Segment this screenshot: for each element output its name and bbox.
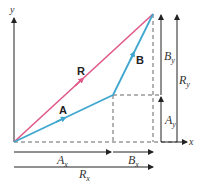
ry-component-label: Ry: [178, 73, 190, 89]
vector-diagram: y x R A B By Ay Ry Ax Bx: [0, 0, 197, 187]
vector-r-arrow: [75, 79, 82, 85]
vector-a-arrow: [56, 118, 64, 122]
diagram-svg: y x R A B By Ay Ry Ax Bx: [0, 0, 197, 187]
ay-component-label: Ay: [164, 113, 176, 129]
rx-component-label: Rx: [78, 167, 90, 183]
vector-a-label: A: [59, 104, 67, 116]
y-axis-label: y: [9, 4, 15, 15]
vector-b-label: B: [136, 54, 144, 66]
vector-b-arrow: [130, 54, 134, 61]
by-component-label: By: [164, 49, 175, 65]
x-axis-label: x: [188, 136, 194, 147]
vector-r-label: R: [77, 65, 85, 77]
vector-r: [14, 14, 153, 142]
